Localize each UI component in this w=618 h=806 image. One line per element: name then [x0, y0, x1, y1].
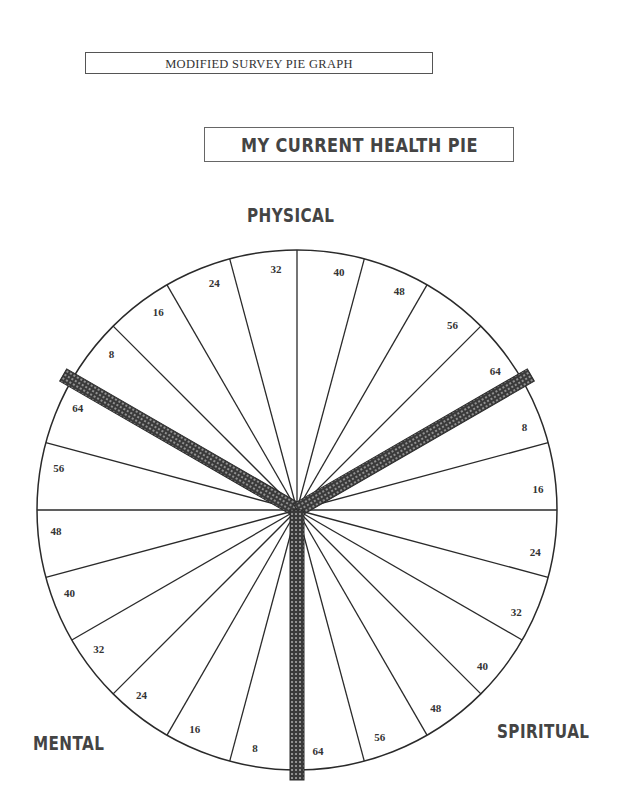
scale-label: 64 [490, 365, 502, 377]
scale-label: 16 [533, 483, 545, 495]
scale-label: 8 [522, 421, 528, 433]
section-divider-bar [290, 510, 304, 780]
scale-label: 64 [72, 402, 84, 414]
scale-label: 8 [252, 742, 258, 754]
pie-spoke [297, 510, 522, 640]
section-divider-bar [60, 369, 301, 516]
pie-spoke [230, 510, 297, 761]
pie-spoke [297, 510, 364, 761]
health-pie-diagram: 8162432404856648162432404856648162432404… [0, 0, 618, 806]
scale-label: 16 [189, 723, 201, 735]
scale-label: 48 [50, 525, 62, 537]
scale-label: 56 [53, 462, 65, 474]
scale-label: 16 [153, 306, 165, 318]
pie-spoke [297, 443, 548, 510]
scale-label: 32 [93, 643, 105, 655]
pie-spoke [297, 510, 548, 577]
pie-spoke [46, 510, 297, 577]
scale-label: 8 [109, 348, 115, 360]
scale-label: 40 [477, 660, 489, 672]
scale-label: 40 [64, 587, 76, 599]
pie-spoke [113, 510, 297, 694]
pie-spoke [72, 510, 297, 640]
scale-label: 48 [430, 702, 442, 714]
scale-label: 40 [334, 266, 346, 278]
scale-label: 32 [270, 263, 282, 275]
scale-label: 24 [136, 689, 148, 701]
pie-spoke [167, 510, 297, 735]
section-divider-bar [294, 369, 535, 516]
scale-label: 24 [209, 277, 221, 289]
scale-label: 24 [530, 546, 542, 558]
scale-label: 48 [394, 285, 406, 297]
scale-label: 56 [374, 731, 386, 743]
scale-label: 32 [511, 606, 523, 618]
pie-spoke [46, 443, 297, 510]
pie-spoke [297, 510, 481, 694]
scale-label: 56 [447, 319, 459, 331]
scale-label: 64 [313, 745, 325, 757]
pie-spoke [297, 510, 427, 735]
